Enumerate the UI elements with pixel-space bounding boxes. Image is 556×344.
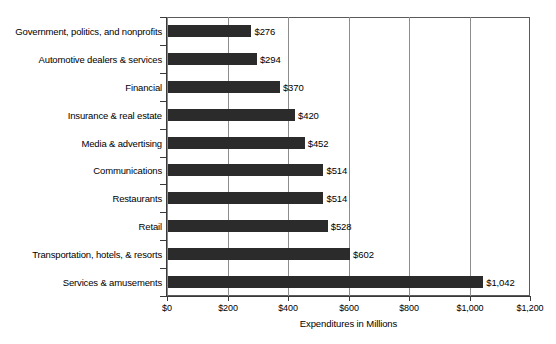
y-tick-mark	[160, 45, 167, 46]
category-label: Retail	[139, 221, 162, 232]
horizontal-bar-chart: $0$200$400$600$800$1,000$1,200 $276$294$…	[0, 0, 556, 344]
category-label: Restaurants	[112, 193, 162, 204]
category-label: Automotive dealers & services	[39, 53, 162, 64]
bar-value-label: $514	[326, 165, 347, 176]
x-tick-mark	[530, 296, 531, 301]
bar	[168, 220, 328, 232]
bar-value-label: $294	[260, 53, 281, 64]
y-tick-mark	[160, 101, 167, 102]
x-tick-mark	[409, 296, 410, 301]
bar-value-label: $602	[353, 249, 374, 260]
bar	[168, 164, 323, 176]
bar-value-label: $420	[298, 109, 319, 120]
y-tick-mark	[160, 212, 167, 213]
y-tick-mark	[160, 129, 167, 130]
bar-value-label: $452	[308, 137, 329, 148]
x-tick-label: $200	[218, 303, 238, 314]
bar	[168, 53, 257, 65]
bar-value-label: $514	[326, 193, 347, 204]
gridline	[470, 17, 471, 296]
x-tick-label: $1,000	[457, 303, 484, 314]
bar-value-label: $276	[254, 25, 275, 36]
category-label: Insurance & real estate	[68, 109, 162, 120]
x-tick-mark	[349, 296, 350, 301]
x-tick-mark	[167, 296, 168, 301]
y-tick-mark	[160, 73, 167, 74]
category-label: Communications	[93, 165, 162, 176]
bar-value-label: $1,042	[486, 277, 514, 288]
x-tick-label: $400	[278, 303, 298, 314]
x-tick-label: $1,200	[517, 303, 544, 314]
bar	[168, 81, 280, 93]
bar	[168, 276, 483, 288]
bar	[168, 25, 251, 37]
x-tick-label: $0	[162, 303, 172, 314]
x-tick-mark	[288, 296, 289, 301]
bar	[168, 109, 295, 121]
category-label: Media & advertising	[81, 137, 162, 148]
bar	[168, 248, 350, 260]
bar	[168, 137, 305, 149]
x-tick-label: $600	[339, 303, 359, 314]
y-tick-mark	[160, 268, 167, 269]
bar-value-label: $528	[331, 221, 352, 232]
category-label: Services & amusements	[63, 277, 162, 288]
y-tick-mark	[160, 296, 167, 297]
bar	[168, 192, 323, 204]
y-tick-mark	[160, 240, 167, 241]
x-axis-title: Expenditures in Millions	[167, 318, 530, 329]
bar-value-label: $370	[283, 81, 304, 92]
y-tick-mark	[160, 17, 167, 18]
category-label: Financial	[125, 81, 162, 92]
category-label: Government, politics, and nonprofits	[15, 25, 162, 36]
category-label: Transportation, hotels, & resorts	[32, 249, 162, 260]
y-tick-mark	[160, 157, 167, 158]
y-tick-mark	[160, 184, 167, 185]
gridline	[409, 17, 410, 296]
x-tick-mark	[228, 296, 229, 301]
x-tick-label: $800	[399, 303, 419, 314]
x-tick-mark	[470, 296, 471, 301]
